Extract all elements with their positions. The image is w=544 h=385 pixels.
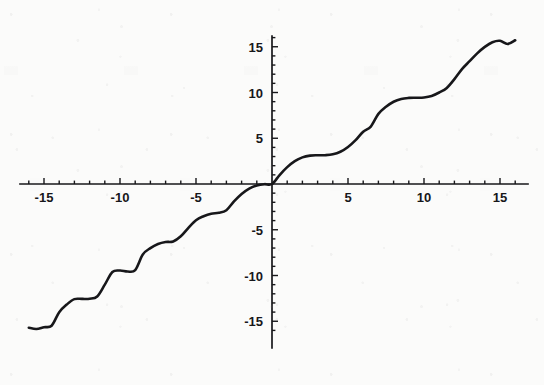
x-tick-label: 10: [417, 190, 431, 205]
plot-canvas: -15-10-551015 15105-5-10-15: [0, 0, 544, 385]
x-tick-label: -15: [35, 190, 54, 205]
x-tick-label: -10: [111, 190, 130, 205]
y-tick-label: -15: [244, 314, 263, 329]
figure-page: -15-10-551015 15105-5-10-15: [0, 0, 544, 385]
x-tick-label: 15: [493, 190, 507, 205]
x-tick-label: 5: [344, 190, 351, 205]
y-tick-label: -10: [244, 269, 263, 284]
x-tick-label: -5: [190, 190, 202, 205]
y-tick-label: -5: [251, 223, 263, 238]
x-tick-label-group: -15-10-551015: [35, 190, 508, 205]
y-tick-label: 5: [256, 131, 263, 146]
y-tick-label: 15: [249, 40, 263, 55]
y-tick-label: 10: [249, 86, 263, 101]
